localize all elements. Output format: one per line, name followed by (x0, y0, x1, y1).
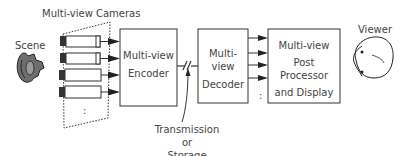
scene-object-icon (17, 53, 44, 82)
camera-4 (59, 86, 120, 98)
camera-2 (60, 53, 120, 64)
camera-3 (59, 69, 120, 81)
postprocessor-line1: Multi-view (268, 39, 340, 52)
camera-ellipsis: : (83, 105, 86, 117)
channel-label: Transmission or Storage Media (152, 123, 222, 156)
postprocessor-line2: Post Processor (268, 56, 340, 82)
camera-1 (60, 36, 120, 47)
viewer-label: Viewer (358, 24, 392, 36)
cameras-label: Multi-view Cameras (42, 8, 140, 20)
encoder-line2: Encoder (120, 67, 177, 80)
postprocessor-text: Multi-view Post Processor and Display (268, 39, 340, 99)
decoder-text: Multi-view Decoder (198, 47, 248, 91)
decoder-ellipsis: : (259, 90, 262, 102)
decoder-line1: Multi-view (198, 47, 248, 73)
viewer-head-icon (353, 37, 393, 78)
scene-label: Scene (15, 40, 46, 52)
channel-label-line2: Storage Media (152, 149, 222, 156)
channel-label-line1: Transmission or (152, 123, 222, 149)
encoder-line1: Multi-view (120, 49, 177, 62)
decoder-line2: Decoder (198, 78, 248, 91)
decoder-output-arrows (248, 35, 268, 81)
channel-pointer (182, 72, 188, 122)
postprocessor-line3: and Display (268, 86, 340, 99)
encoder-text: Multi-view Encoder (120, 49, 177, 80)
